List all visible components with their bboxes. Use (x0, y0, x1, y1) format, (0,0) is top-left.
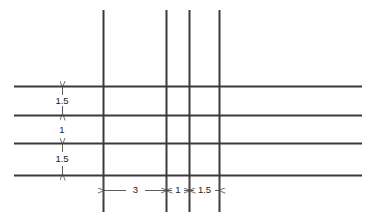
dimension-diagram: 1.5 1 1.5 3 1 (0, 0, 375, 218)
horizontal-dimension-1-label: 1 (175, 184, 180, 195)
horizontal-dimension-1: 1 (167, 184, 189, 195)
vertical-dimension-3-label: 1.5 (55, 153, 68, 164)
vertical-dimension-3: 1.5 (55, 144, 68, 174)
vertical-dimension-1-label: 1.5 (55, 95, 68, 106)
vertical-dimension-2-label: 1 (59, 124, 64, 135)
horizontal-dimension-1-5: 1.5 (190, 184, 219, 195)
horizontal-dimension-3-label: 3 (133, 184, 138, 195)
vertical-dimension-2: 1 (59, 124, 64, 135)
diagram-canvas: 1.5 1 1.5 3 1 (0, 0, 375, 218)
vertical-lines-group (104, 10, 220, 212)
horizontal-dimension-3: 3 (104, 184, 166, 195)
vertical-dimension-1: 1.5 (55, 87, 68, 114)
horizontal-dimension-1-5-label: 1.5 (198, 184, 211, 195)
